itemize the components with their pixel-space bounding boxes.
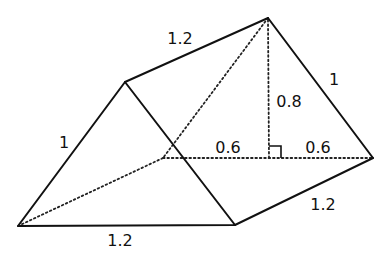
- label-top-edge: 1.2: [167, 29, 192, 48]
- label-base-right-half: 0.6: [305, 138, 330, 157]
- bottom-right-edge: [235, 158, 373, 225]
- hidden-edge-front-left-to-back-left: [18, 158, 163, 226]
- label-base-left-half: 0.6: [215, 138, 240, 157]
- label-front-slant-edge: 1: [59, 133, 69, 152]
- front-triangle-face: [18, 82, 235, 226]
- label-back-slant-edge: 1: [329, 70, 339, 89]
- height-altitude-line: [268, 20, 269, 158]
- label-height: 0.8: [276, 92, 301, 111]
- label-bottom-front-edge: 1.2: [107, 231, 132, 250]
- right-angle-marker: [269, 146, 281, 158]
- triangular-prism-diagram: 1.2 1 0.8 0.6 0.6 1 1.2 1.2: [0, 0, 390, 268]
- top-ridge-edge: [125, 18, 268, 82]
- label-bottom-right-edge: 1.2: [310, 195, 335, 214]
